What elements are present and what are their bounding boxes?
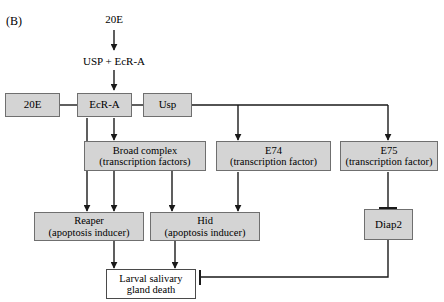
node-ecr-a-line1: EcR-A: [89, 99, 120, 111]
node-hid[interactable]: Hid (apoptosis inducer): [150, 212, 260, 241]
node-gland-death-line2: gland death: [127, 284, 176, 295]
pathway-diagram: (B) 20E USP + EcR-A: [0, 0, 444, 302]
node-e74-line2: (transcription factor): [230, 156, 317, 167]
node-broad-complex-line2: (transcription factors): [99, 156, 190, 167]
node-hid-line1: Hid: [197, 215, 213, 226]
node-e75-line1: E75: [381, 145, 398, 156]
node-ligand-20e-line1: 20E: [24, 99, 42, 111]
node-usp-line1: Usp: [159, 99, 177, 111]
node-reaper-line1: Reaper: [74, 215, 104, 226]
node-broad-complex-line1: Broad complex: [113, 145, 177, 156]
node-e74[interactable]: E74 (transcription factor): [216, 141, 331, 171]
node-ecr-a[interactable]: EcR-A: [77, 93, 132, 117]
node-reaper-line2: (apoptosis inducer): [49, 227, 130, 238]
node-usp[interactable]: Usp: [143, 93, 192, 117]
node-broad-complex[interactable]: Broad complex (transcription factors): [84, 141, 206, 171]
node-diap2-line1: Diap2: [375, 219, 402, 231]
node-gland-death[interactable]: Larval salivary gland death: [106, 269, 196, 299]
edge-diap2-inhibits-gland-death: [200, 240, 388, 277]
node-e75[interactable]: E75 (transcription factor): [340, 141, 438, 171]
node-reaper[interactable]: Reaper (apoptosis inducer): [34, 212, 144, 241]
node-ligand-20e[interactable]: 20E: [5, 93, 60, 117]
node-e74-line1: E74: [265, 145, 282, 156]
node-gland-death-line1: Larval salivary: [119, 273, 182, 284]
node-hid-line2: (apoptosis inducer): [165, 227, 246, 238]
node-e75-line2: (transcription factor): [345, 156, 432, 167]
node-diap2[interactable]: Diap2: [364, 209, 413, 240]
